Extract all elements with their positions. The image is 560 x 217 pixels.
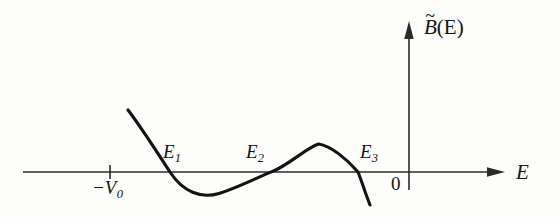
annotation-e1-base: E xyxy=(163,141,175,162)
tilde-accent: ~ xyxy=(425,7,435,25)
y-axis-arrowhead xyxy=(404,21,413,39)
annotation-e3-sub: 3 xyxy=(372,151,378,165)
annotation-e3-base: E xyxy=(360,141,372,162)
annotation-e1-sub: 1 xyxy=(175,151,181,165)
tick-label-minus-v0: −V0 xyxy=(92,178,123,200)
tick-label-minus-v0-base: −V xyxy=(92,177,116,198)
annotation-e2: E2 xyxy=(246,142,264,164)
x-axis-arrowhead xyxy=(487,167,505,177)
figure-container: ~B(E) E E1 E2 E3 −V0 0 xyxy=(0,0,560,217)
x-axis-title: E xyxy=(516,162,529,183)
b-tilde-glyph: ~B xyxy=(424,17,437,38)
annotation-e3: E3 xyxy=(360,142,378,164)
annotation-e2-sub: 2 xyxy=(258,151,264,165)
y-axis-title-arg: (E) xyxy=(437,15,464,39)
origin-label: 0 xyxy=(391,174,401,193)
y-axis-title: ~B(E) xyxy=(424,17,464,38)
annotation-e1: E1 xyxy=(163,142,181,164)
tick-label-minus-v0-sub: 0 xyxy=(117,187,123,201)
plot-canvas xyxy=(0,0,560,217)
annotation-e2-base: E xyxy=(246,141,258,162)
